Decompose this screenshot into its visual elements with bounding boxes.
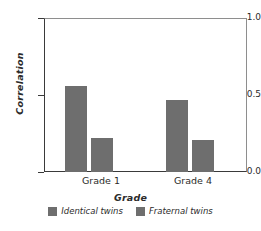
- legend-label: Fraternal twins: [149, 206, 213, 216]
- x-tick-label-grade-4: Grade 4: [148, 175, 238, 186]
- bar-grade-4-identical-twins: [166, 100, 188, 172]
- legend-label: Identical twins: [61, 206, 123, 216]
- legend-swatch-icon: [48, 207, 57, 216]
- x-axis-title: Grade: [0, 192, 261, 203]
- bar-chart-figure: Correlation 1.0 0.5 0.0 Grade 1 Grade 4 …: [0, 0, 261, 231]
- chart-legend: Identical twinsFraternal twins: [0, 206, 261, 216]
- bar-grade-4-fraternal-twins: [192, 140, 214, 172]
- bars-layer: [44, 18, 247, 172]
- bar-grade-1-identical-twins: [65, 86, 87, 172]
- x-tick-label-grade-1: Grade 1: [56, 175, 146, 186]
- legend-entry-identical-twins: Identical twins: [48, 206, 123, 216]
- y-axis-title: Correlation: [14, 44, 25, 124]
- y-tick-mark-0.0: [38, 172, 44, 173]
- legend-swatch-icon: [136, 207, 145, 216]
- legend-entry-fraternal-twins: Fraternal twins: [136, 206, 213, 216]
- bar-grade-1-fraternal-twins: [91, 138, 113, 172]
